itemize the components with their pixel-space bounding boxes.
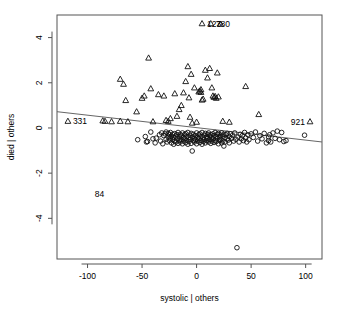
- y-tick-label: 2: [34, 80, 44, 85]
- data-point-triangle: [194, 119, 200, 124]
- data-point-triangle: [188, 71, 194, 76]
- data-point-triangle: [174, 113, 180, 118]
- point-label-331: 331: [73, 116, 87, 126]
- data-point-circle: [279, 130, 284, 135]
- x-tick-label: 100: [299, 271, 313, 281]
- data-point-triangle: [207, 65, 213, 70]
- data-point-triangle: [214, 70, 220, 75]
- y-tick-label: 0: [34, 125, 44, 130]
- data-point-triangle: [123, 97, 129, 102]
- data-point-circle: [153, 141, 158, 146]
- data-point-triangle: [117, 76, 123, 81]
- data-point-circle: [148, 130, 153, 135]
- data-point-triangle: [148, 86, 154, 91]
- data-point-circle: [190, 149, 195, 154]
- data-point-triangle: [109, 119, 115, 124]
- scatter-plot: -100-50050100systolic | others-4-2024die…: [0, 0, 337, 313]
- data-point-triangle: [186, 95, 192, 100]
- chart-container: -100-50050100systolic | others-4-2024die…: [0, 0, 337, 313]
- data-point-triangle: [146, 55, 152, 60]
- point-label-84: 84: [95, 189, 105, 199]
- y-axis-title: died | others: [6, 114, 16, 161]
- data-point-triangle: [226, 119, 232, 124]
- data-point-triangle: [156, 91, 162, 96]
- x-tick-label: -100: [79, 271, 96, 281]
- data-point-circle: [255, 139, 260, 144]
- data-point-circle: [227, 141, 232, 146]
- point-label-780: 780: [216, 19, 230, 29]
- data-point-circle: [277, 137, 282, 142]
- data-point-circle: [251, 135, 256, 140]
- data-point-triangle: [161, 93, 167, 98]
- data-point-triangle: [181, 90, 187, 95]
- x-axis-title: systolic | others: [160, 293, 218, 303]
- data-point-triangle: [243, 83, 249, 88]
- y-tick-label: 4: [34, 35, 44, 40]
- x-tick-label: 50: [246, 271, 256, 281]
- data-point-triangle: [220, 118, 226, 123]
- data-point-circle: [253, 130, 258, 135]
- y-tick-label: -4: [34, 214, 44, 222]
- data-point-triangle: [178, 102, 184, 107]
- data-point-triangle: [199, 21, 205, 26]
- data-point-triangle: [187, 114, 193, 119]
- x-tick-label: 0: [194, 271, 199, 281]
- data-point-circle: [135, 137, 140, 142]
- data-point-triangle: [185, 63, 191, 68]
- y-tick-label: -2: [34, 169, 44, 177]
- point-label-921: 921: [291, 117, 305, 127]
- data-point-triangle: [121, 81, 127, 86]
- x-tick-label: -50: [136, 271, 149, 281]
- data-point-triangle: [256, 111, 262, 116]
- data-point-triangle: [307, 119, 313, 124]
- data-point-triangle: [134, 109, 140, 114]
- data-point-triangle: [172, 91, 178, 96]
- data-point-triangle: [192, 85, 198, 90]
- data-point-triangle: [205, 75, 211, 80]
- data-point-triangle: [65, 118, 71, 123]
- data-point-circle: [275, 129, 280, 134]
- data-point-circle: [302, 133, 307, 138]
- data-point-triangle: [183, 78, 189, 83]
- data-point-triangle: [209, 85, 215, 90]
- data-point-circle: [143, 134, 148, 139]
- data-point-circle: [235, 245, 240, 250]
